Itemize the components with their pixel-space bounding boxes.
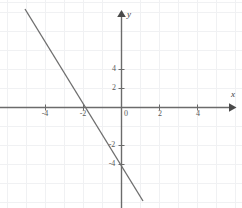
y-tick-label-plus4: 4	[112, 64, 116, 73]
x-tick-label-minus2: -2	[80, 109, 87, 118]
coordinate-plane-figure: -4 -2 0 2 4 4 2 -2 -4 x y	[0, 0, 242, 208]
y-tick-label-minus2: -2	[109, 140, 116, 149]
y-axis-label: y	[126, 9, 131, 19]
graph-canvas: -4 -2 0 2 4 4 2 -2 -4 x y	[0, 0, 242, 208]
x-tick-label-plus4: 4	[196, 109, 200, 118]
x-tick-label-zero: 0	[124, 109, 128, 118]
y-tick-label-minus4: -4	[109, 159, 116, 168]
y-tick-label-plus2: 2	[112, 83, 116, 92]
x-tick-label-minus4: -4	[42, 109, 49, 118]
x-tick-label-plus2: 2	[158, 109, 162, 118]
x-axis-label: x	[230, 89, 235, 99]
